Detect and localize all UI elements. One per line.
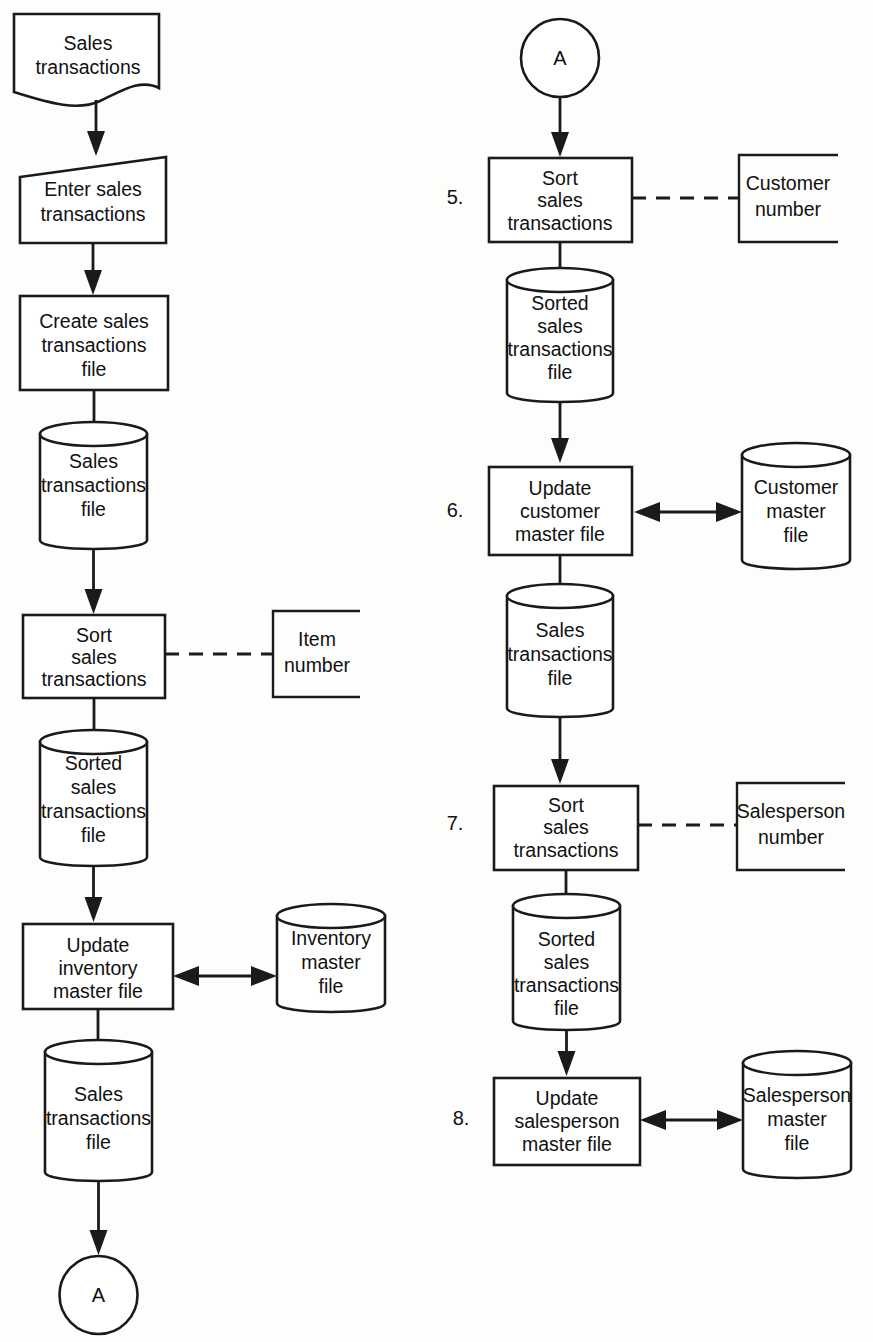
arrow-sorted-to-update-customer xyxy=(551,403,569,463)
arrow-store-to-sort-salesperson xyxy=(551,718,569,784)
node-label-line: file xyxy=(319,975,344,997)
node-salesperson-master-file[interactable]: Salesperson master file xyxy=(743,1051,851,1178)
connector-letter: A xyxy=(553,47,567,69)
node-sort-sales-transactions-item[interactable]: Sort sales transactions xyxy=(23,615,165,698)
cylinder-top xyxy=(742,443,850,467)
node-label-line: sales xyxy=(544,951,590,973)
node-label-line: file xyxy=(86,1131,111,1153)
step-number-7: 7. xyxy=(447,812,464,834)
node-customer-master-file[interactable]: Customer master file xyxy=(742,443,850,569)
node-label-line: file xyxy=(554,997,579,1019)
step-number-6: 6. xyxy=(447,499,464,521)
cylinder-top xyxy=(45,1040,152,1064)
annotation-customer-number[interactable]: Customer number xyxy=(739,155,838,242)
node-label-line: Sorted xyxy=(65,752,122,774)
node-label-line: transactions xyxy=(41,668,146,690)
node-label-line: Sales xyxy=(64,32,113,54)
annotation-label-line: number xyxy=(284,654,351,676)
node-update-inventory-master-file[interactable]: Update inventory master file xyxy=(23,924,173,1009)
node-label-line: Update xyxy=(67,934,130,956)
annotation-label-line: Item xyxy=(298,628,336,650)
node-sales-transactions-file-2[interactable]: Sales transactions file xyxy=(45,1040,152,1181)
flowchart-canvas: Sales transactions Enter sales transacti… xyxy=(0,0,873,1342)
node-label-line: sales xyxy=(537,315,583,337)
node-sorted-sales-transactions-file-2[interactable]: Sorted sales transactions file xyxy=(507,268,613,402)
cylinder-top xyxy=(513,894,620,918)
annotation-item-number[interactable]: Item number xyxy=(273,611,360,697)
node-label-line: transactions xyxy=(507,643,612,665)
double-arrow-salesperson xyxy=(640,1110,743,1130)
cylinder-top xyxy=(507,268,613,292)
node-label-line: transactions xyxy=(507,338,612,360)
cylinder-top xyxy=(40,730,147,754)
annotation-salesperson-number[interactable]: Salesperson number xyxy=(737,783,845,870)
annotation-label-line: number xyxy=(758,826,825,848)
node-label-line: Create sales xyxy=(39,310,149,332)
node-label-line: file xyxy=(548,667,573,689)
node-sort-sales-transactions-customer[interactable]: Sort sales transactions xyxy=(489,158,632,242)
arrow-sorted-to-update-inventory xyxy=(85,867,103,922)
node-label-line: Salesperson xyxy=(743,1084,851,1106)
node-label-line: file xyxy=(82,358,107,380)
node-label-line: salesperson xyxy=(514,1110,619,1132)
node-label-line: Sorted xyxy=(531,292,588,314)
node-label-line: file xyxy=(81,498,106,520)
node-label-line: transactions xyxy=(35,56,140,78)
node-label-line: Sort xyxy=(542,167,578,189)
connector-letter: A xyxy=(92,1284,106,1306)
node-label-line: Sorted xyxy=(538,928,595,950)
node-label-line: Sales xyxy=(69,450,118,472)
double-arrow-customer xyxy=(634,502,742,522)
node-update-customer-master-file[interactable]: Update customer master file xyxy=(489,467,632,555)
node-enter-sales-transactions[interactable]: Enter sales transactions xyxy=(20,157,166,243)
node-label-line: master xyxy=(767,1108,827,1130)
arrow-enter-to-create xyxy=(84,243,102,295)
node-label-line: transactions xyxy=(514,974,619,996)
step-number-5: 5. xyxy=(447,186,464,208)
node-inventory-master-file[interactable]: Inventory master file xyxy=(277,904,385,1012)
cylinder-top xyxy=(507,584,613,608)
node-sales-transactions-file-3[interactable]: Sales transactions file xyxy=(507,584,613,717)
node-label-line: Customer xyxy=(754,476,839,498)
node-label-line: transactions xyxy=(46,1107,151,1129)
node-sort-sales-transactions-salesperson[interactable]: Sort sales transactions xyxy=(494,786,638,870)
node-label-line: sales xyxy=(537,189,583,211)
connector-a-out[interactable]: A xyxy=(60,1256,138,1334)
node-label-line: master file xyxy=(53,980,143,1002)
node-label-line: sales xyxy=(543,816,589,838)
node-label-line: Sales xyxy=(536,619,585,641)
annotation-label-line: Salesperson xyxy=(737,800,845,822)
annotation-label-line: number xyxy=(755,198,822,220)
connector-a-in[interactable]: A xyxy=(521,19,599,97)
node-create-sales-transactions-file[interactable]: Create sales transactions file xyxy=(20,296,168,390)
node-label-line: transactions xyxy=(507,212,612,234)
node-label-line: Update xyxy=(529,477,592,499)
node-sorted-sales-transactions-file-3[interactable]: Sorted sales transactions file xyxy=(513,894,620,1030)
node-label-line: transactions xyxy=(40,203,145,225)
node-label-line: Inventory xyxy=(291,927,371,949)
double-arrow-inventory xyxy=(173,966,277,986)
node-sales-transactions-file-1[interactable]: Sales transactions file xyxy=(40,422,147,549)
node-update-salesperson-master-file[interactable]: Update salesperson master file xyxy=(494,1078,640,1165)
cylinder-top xyxy=(40,422,147,446)
annotation-label-line: Customer xyxy=(746,172,831,194)
node-label-line: inventory xyxy=(58,957,137,979)
arrow-sorted-to-update-salesperson xyxy=(558,1031,576,1076)
cylinder-top xyxy=(743,1051,851,1075)
node-label-line: file xyxy=(784,524,809,546)
node-label-line: file xyxy=(785,1132,810,1154)
node-label-line: transactions xyxy=(513,839,618,861)
node-label-line: Sort xyxy=(548,794,584,816)
node-label-line: Sort xyxy=(76,624,112,646)
node-label-line: sales xyxy=(71,776,117,798)
node-label-line: master xyxy=(301,951,361,973)
node-sorted-sales-transactions-file-1[interactable]: Sorted sales transactions file xyxy=(40,730,147,866)
arrow-store-to-sort-item xyxy=(85,550,103,614)
node-label-line: transactions xyxy=(41,474,146,496)
node-label-line: master xyxy=(766,500,826,522)
arrow-store-to-connector-a xyxy=(90,1182,108,1255)
node-sales-transactions-document[interactable]: Sales transactions xyxy=(14,14,159,106)
node-label-line: file xyxy=(548,361,573,383)
node-label-line: Enter sales xyxy=(44,178,142,200)
arrow-a-to-sort-customer xyxy=(551,97,569,157)
